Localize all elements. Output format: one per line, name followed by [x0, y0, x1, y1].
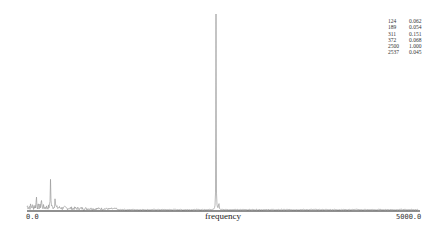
spectrum-plot — [0, 0, 444, 236]
x-max-tick-label: 5000.0 — [396, 213, 421, 221]
spectrum-line — [27, 14, 418, 210]
peak-frequency: 2537 — [386, 49, 401, 55]
peak-table-row: 25370.045 — [386, 49, 423, 55]
peak-amplitude: 0.045 — [401, 49, 423, 55]
spectrum-polyline — [27, 14, 418, 210]
peak-table: 1240.0621890.0543110.1513720.06825001.00… — [386, 18, 423, 56]
x-min-tick-label: 0.0 — [26, 213, 39, 221]
x-axis-title: frequency — [205, 211, 241, 221]
